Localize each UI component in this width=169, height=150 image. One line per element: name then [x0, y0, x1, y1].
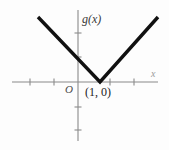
absolute-value-curve	[38, 17, 158, 82]
y-axis-label: g(x)	[82, 13, 101, 25]
origin-label: O	[65, 84, 73, 95]
graph-figure: g(x) x O (1, 0)	[0, 0, 169, 150]
x-axis-label: x	[151, 69, 155, 79]
vertex-coordinate-label: (1, 0)	[85, 86, 111, 98]
